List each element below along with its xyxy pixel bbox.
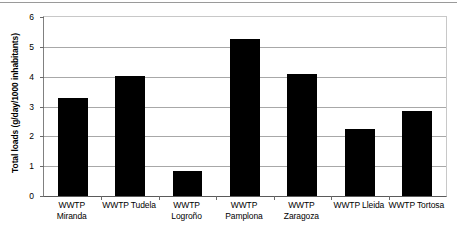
top-divider-rule <box>0 2 457 3</box>
bar <box>345 129 375 196</box>
y-axis-tick-label: 3 <box>29 102 34 111</box>
y-axis-tick-label: 2 <box>29 132 34 141</box>
bar <box>58 98 88 196</box>
x-axis-category-labels: WWTPMirandaWWTP TudelaWWTPLogroñoWWTPPam… <box>43 200 445 234</box>
y-axis-tick-label: 1 <box>29 162 34 171</box>
y-axis-tick-label: 6 <box>29 13 34 22</box>
x-axis-label-line: Miranda <box>36 211 107 222</box>
y-axis-tick-label: 4 <box>29 72 34 81</box>
bar <box>287 74 317 196</box>
y-axis-tick-label: 0 <box>29 192 34 201</box>
bar-series <box>44 17 446 196</box>
plot-area: 0123456 <box>43 16 447 197</box>
y-axis-tick: 0 <box>40 196 44 197</box>
bar <box>230 39 260 196</box>
bar <box>173 171 203 196</box>
bar <box>115 76 145 196</box>
bar-chart-figure: Total loads (g/day/1000 inhabitants) 012… <box>0 0 457 237</box>
x-axis-label-line: Zaragoza <box>266 211 337 222</box>
x-axis-category-label: WWTP Tortosa <box>381 200 452 211</box>
bar <box>402 111 432 196</box>
x-axis-label-line: WWTP Tortosa <box>381 200 452 211</box>
y-axis-tick-label: 5 <box>29 43 34 52</box>
y-axis-title: Total loads (g/day/1000 inhabitants) <box>10 15 20 191</box>
